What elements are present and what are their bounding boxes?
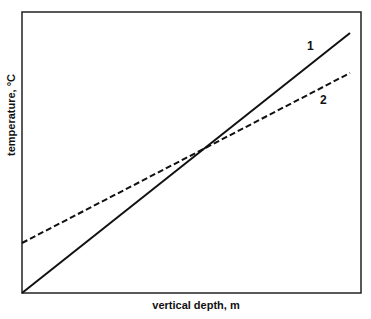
chart: 1 2 vertical depth, m temperature, °C (0, 0, 371, 319)
series-2-label: 2 (320, 93, 327, 107)
plot-frame (22, 12, 361, 293)
x-axis-label: vertical depth, m (152, 299, 240, 311)
series-2-line (22, 73, 350, 243)
series-1-label: 1 (307, 39, 314, 53)
y-axis-label: temperature, °C (5, 74, 17, 156)
series-1-line (22, 33, 350, 293)
